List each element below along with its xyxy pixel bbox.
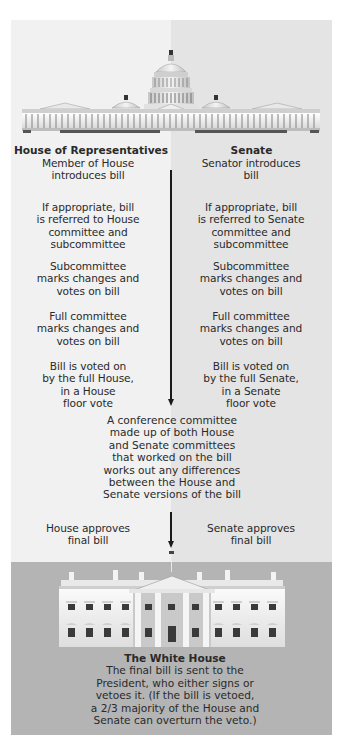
- flow-arrow-line: [170, 170, 172, 400]
- senate-step-referral: If appropriate, bill is referred to Sena…: [180, 201, 322, 251]
- senate-step-subcommittee: Subcommittee marks changes and votes on …: [180, 260, 322, 297]
- house-step-subcommittee: Subcommittee marks changes and votes on …: [18, 260, 158, 297]
- white-house-icon: [59, 568, 285, 648]
- senate-column-header: Senate: [171, 144, 332, 156]
- house-step-floor-vote: Bill is voted on by the full House, in a…: [18, 360, 158, 410]
- house-column-header: House of Representatives: [11, 144, 171, 156]
- house-step-full-committee: Full committee marks changes and votes o…: [18, 310, 158, 347]
- flow-arrow-line: [170, 512, 172, 542]
- arrow-down-icon: [168, 399, 174, 406]
- white-house-description: The final bill is sent to the President,…: [80, 664, 270, 727]
- senate-step-full-committee: Full committee marks changes and votes o…: [180, 310, 322, 347]
- arrow-down-icon: [168, 541, 174, 548]
- senate-step-introduce: Senator introduces bill: [180, 157, 322, 182]
- house-step-referral: If appropriate, bill is referred to Hous…: [18, 201, 158, 251]
- us-capitol-icon: [20, 48, 322, 136]
- house-step-introduce: Member of House introduces bill: [18, 157, 158, 182]
- senate-step-floor-vote: Bill is voted on by the full Senate, in …: [180, 360, 322, 410]
- house-approves-step: House approves final bill: [18, 522, 158, 547]
- conference-committee-step: A conference committee made up of both H…: [96, 414, 248, 501]
- white-house-title: The White House: [90, 652, 260, 664]
- senate-approves-step: Senate approves final bill: [180, 522, 322, 547]
